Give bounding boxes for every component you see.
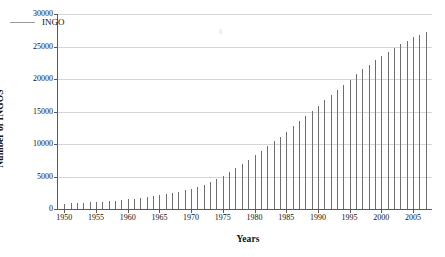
x-axis-tick-label: 1975 xyxy=(215,214,231,222)
bar xyxy=(407,41,408,209)
bar xyxy=(90,202,91,209)
gridline xyxy=(58,47,432,48)
x-axis-tick-label: 1980 xyxy=(247,214,263,222)
bar xyxy=(350,80,351,209)
y-axis-tick-mark xyxy=(54,14,58,15)
x-axis-tick-label: 2005 xyxy=(405,214,421,222)
bar xyxy=(413,37,414,209)
y-axis-tick-mark xyxy=(54,144,58,145)
bar xyxy=(229,172,230,209)
bar xyxy=(102,202,103,209)
bar xyxy=(261,151,262,210)
x-axis-title: Years xyxy=(57,234,439,244)
x-axis-tick-label: 1965 xyxy=(151,214,167,222)
bar xyxy=(337,90,338,209)
bar xyxy=(362,69,363,209)
bar xyxy=(242,164,243,209)
bar xyxy=(381,56,382,209)
bar xyxy=(343,85,344,209)
bar xyxy=(248,160,249,209)
bar xyxy=(185,190,186,209)
bar xyxy=(140,198,141,209)
bar xyxy=(83,203,84,209)
y-axis-tick-label: 15000 xyxy=(33,108,53,116)
bar xyxy=(128,199,129,209)
bar xyxy=(191,189,192,209)
chart-figure: Number of INGOS 050001000015000200002500… xyxy=(0,0,445,257)
gridline xyxy=(58,14,432,15)
y-axis-tick-label: 20000 xyxy=(33,75,53,83)
x-axis-tick-label: 1950 xyxy=(56,214,72,222)
y-axis-tick-label: 5000 xyxy=(37,173,53,181)
bar xyxy=(400,44,401,209)
y-axis-tick-mark xyxy=(54,112,58,113)
plot-area: 050001000015000200002500030000 195019551… xyxy=(57,14,432,210)
bar xyxy=(356,74,357,209)
y-axis-tick-mark xyxy=(54,79,58,80)
bar xyxy=(216,179,217,209)
y-axis-title: Number of INGOS xyxy=(0,0,36,257)
bar xyxy=(235,168,236,209)
legend-item-label-ingo: INGO xyxy=(42,18,65,27)
bar xyxy=(134,199,135,209)
bar xyxy=(77,203,78,209)
y-axis-tick-label: 25000 xyxy=(33,43,53,51)
bar xyxy=(324,100,325,209)
bar xyxy=(71,203,72,209)
bar xyxy=(115,201,116,209)
bar xyxy=(299,121,300,209)
bar xyxy=(331,95,332,209)
y-axis-tick-label: 10000 xyxy=(33,140,53,148)
bar xyxy=(419,35,420,209)
bar xyxy=(147,197,148,209)
bar xyxy=(305,116,306,209)
bar xyxy=(178,192,179,209)
x-axis-tick-label: 1985 xyxy=(278,214,294,222)
legend-line-marker-icon xyxy=(10,22,35,23)
bar xyxy=(172,193,173,209)
bar xyxy=(394,48,395,209)
y-axis-tick-mark xyxy=(54,177,58,178)
x-axis-tick-label: 1960 xyxy=(120,214,136,222)
x-axis-tick-label: 1970 xyxy=(183,214,199,222)
plot-artifact-speckle xyxy=(219,29,222,34)
y-axis-tick-mark xyxy=(54,47,58,48)
bar xyxy=(153,196,154,209)
bar xyxy=(369,65,370,209)
x-axis-tick-label: 1995 xyxy=(342,214,358,222)
bar xyxy=(388,52,389,209)
bar xyxy=(255,155,256,209)
bar xyxy=(426,32,427,209)
y-axis-tick-label: 0 xyxy=(49,205,53,213)
bar xyxy=(267,146,268,209)
bar xyxy=(223,176,224,209)
bar xyxy=(121,200,122,209)
chart-legend: INGO xyxy=(10,18,65,27)
bar xyxy=(286,132,287,209)
bar xyxy=(312,111,313,209)
bar xyxy=(166,194,167,209)
x-axis-tick-label: 2000 xyxy=(373,214,389,222)
bar xyxy=(293,126,294,209)
bar xyxy=(210,182,211,209)
y-axis-tick-mark xyxy=(54,209,58,210)
bar xyxy=(159,195,160,209)
bar xyxy=(280,137,281,209)
bar xyxy=(204,185,205,209)
bar xyxy=(96,202,97,209)
bar xyxy=(197,187,198,209)
bar xyxy=(274,141,275,209)
bar xyxy=(375,60,376,209)
bar xyxy=(109,201,110,209)
bar xyxy=(318,106,319,209)
x-axis-tick-label: 1990 xyxy=(310,214,326,222)
x-axis-tick-label: 1955 xyxy=(88,214,104,222)
